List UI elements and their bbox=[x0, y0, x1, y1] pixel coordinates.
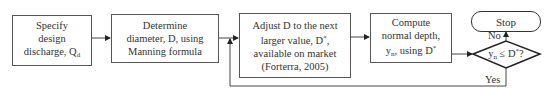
step-adjust-diameter: Adjust D to the next larger value, D*, a… bbox=[239, 13, 351, 78]
step-text: yn, using D* bbox=[382, 42, 440, 61]
step-text: discharge, Qd bbox=[24, 45, 80, 62]
step-text: Manning formula bbox=[126, 45, 203, 58]
decision-text: ≤ D bbox=[497, 48, 516, 59]
step-text: diameter, D, using bbox=[126, 32, 203, 45]
step-text: Specify bbox=[24, 19, 80, 32]
superscript: * bbox=[433, 44, 437, 52]
step-text: Adjust D to the next bbox=[252, 19, 337, 32]
branch-label-no: No bbox=[488, 30, 501, 41]
step-text: Compute bbox=[382, 16, 440, 29]
step-text: available on market bbox=[252, 47, 337, 60]
step-text: Determine bbox=[126, 19, 203, 32]
step-text-main: discharge, Q bbox=[24, 46, 77, 57]
step-specify-discharge: Specify design discharge, Qd bbox=[12, 15, 92, 66]
step-text: normal depth, bbox=[382, 29, 440, 42]
step-text-tail: , using D bbox=[395, 45, 433, 56]
step-determine-diameter: Determine diameter, D, using Manning for… bbox=[111, 14, 219, 63]
step-text-main: larger value, D bbox=[261, 35, 324, 46]
terminal-label: Stop bbox=[496, 16, 516, 28]
decision-text: ? bbox=[519, 48, 524, 59]
subscript: d bbox=[77, 51, 81, 59]
step-text-tail: , bbox=[327, 35, 330, 46]
terminal-stop: Stop bbox=[471, 11, 541, 32]
branch-label-yes: Yes bbox=[485, 74, 500, 85]
step-text: (Forterra, 2005) bbox=[252, 60, 337, 73]
step-text: design bbox=[24, 32, 80, 45]
decision-condition: yn ≤ D*? bbox=[478, 47, 534, 61]
step-compute-normal-depth: Compute normal depth, yn, using D* bbox=[370, 13, 452, 63]
step-text: larger value, D*, bbox=[252, 32, 337, 47]
